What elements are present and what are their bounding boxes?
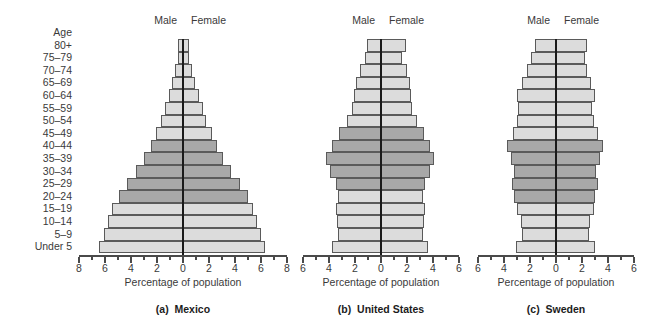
- bar-female: [183, 165, 231, 178]
- x-tick-label: 6: [293, 262, 313, 274]
- x-tick-label: 8: [69, 262, 89, 274]
- bar-male: [527, 64, 556, 77]
- bar-male: [514, 190, 556, 203]
- bar-female: [381, 140, 430, 153]
- bar-male: [336, 203, 382, 216]
- bar-male: [144, 152, 183, 165]
- bar-female: [381, 241, 428, 254]
- x-tick-label: 2: [345, 262, 365, 274]
- x-tick-minor: [393, 257, 394, 261]
- bar-female: [556, 228, 589, 241]
- bar-female: [381, 127, 424, 140]
- bar-female: [556, 127, 598, 140]
- bar-male: [516, 241, 556, 254]
- gender-header: MaleFemale: [478, 14, 634, 28]
- bar-male: [332, 241, 381, 254]
- bar-male: [514, 165, 556, 178]
- bar-male: [338, 190, 381, 203]
- x-tick-label: 2: [572, 262, 592, 274]
- panel-mexico: MaleFemale864202468Percentage of populat…: [79, 0, 287, 336]
- male-label: Male: [527, 14, 550, 26]
- age-group-label: 60–64: [0, 89, 78, 102]
- bar-male: [156, 127, 183, 140]
- female-label: Female: [389, 14, 424, 26]
- bar-female: [381, 52, 402, 65]
- bar-male: [513, 127, 556, 140]
- bar-female: [381, 178, 425, 191]
- bar-male: [165, 102, 183, 115]
- bar-male: [517, 115, 556, 128]
- bar-male: [518, 102, 556, 115]
- age-group-label: 55–59: [0, 102, 78, 115]
- bar-female: [183, 241, 265, 254]
- bar-female: [556, 178, 598, 191]
- bar-female: [183, 190, 248, 203]
- x-tick-label: 4: [319, 262, 339, 274]
- x-axis-title: Percentage of population: [303, 276, 459, 288]
- bar-female: [556, 215, 590, 228]
- age-axis-title: Age: [0, 26, 78, 39]
- age-group-label: 5–9: [0, 228, 78, 241]
- x-tick-minor: [169, 257, 170, 261]
- bar-male: [347, 115, 381, 128]
- bar-male: [151, 140, 184, 153]
- bar-female: [381, 102, 412, 115]
- bar-female: [381, 190, 423, 203]
- bar-male: [104, 228, 183, 241]
- x-tick-label: 4: [423, 262, 443, 274]
- bar-male: [507, 140, 556, 153]
- male-label: Male: [352, 14, 375, 26]
- bar-male: [522, 77, 556, 90]
- x-axis-title: Percentage of population: [79, 276, 287, 288]
- bar-male: [330, 165, 381, 178]
- age-group-label: 20–24: [0, 190, 78, 203]
- bar-female: [556, 241, 595, 254]
- bar-female: [183, 77, 195, 90]
- bar-female: [381, 165, 430, 178]
- caption-name: Mexico: [175, 303, 211, 315]
- age-group-label: 40–44: [0, 139, 78, 152]
- panel-caption-sweden: (c) Sweden: [448, 303, 662, 315]
- bar-female: [556, 39, 587, 52]
- panel-united-states: MaleFemale6420246Percentage of populatio…: [303, 0, 459, 336]
- bar-female: [183, 152, 223, 165]
- x-tick-minor: [445, 257, 446, 261]
- bar-female: [183, 127, 212, 140]
- bar-female: [381, 215, 424, 228]
- bar-female: [183, 140, 217, 153]
- bar-female: [556, 165, 596, 178]
- caption-letter: (a): [156, 303, 169, 315]
- bar-female: [556, 140, 603, 153]
- bar-male: [360, 64, 381, 77]
- x-tick-minor: [117, 257, 118, 261]
- bar-male: [365, 52, 381, 65]
- panel-sweden: MaleFemale6420246Percentage of populatio…: [478, 0, 634, 336]
- bar-male: [161, 115, 183, 128]
- bar-male: [512, 178, 556, 191]
- bar-female: [183, 52, 189, 65]
- x-tick-label: 2: [397, 262, 417, 274]
- x-tick-label: 6: [624, 262, 644, 274]
- bar-female: [556, 190, 595, 203]
- age-axis-labels: Age80+75–7970–7465–6960–6455–5950–5445–4…: [0, 26, 78, 253]
- age-group-label: 80+: [0, 39, 78, 52]
- x-tick-label: 4: [225, 262, 245, 274]
- bar-female: [556, 102, 592, 115]
- bar-male: [521, 215, 556, 228]
- age-group-label: 65–69: [0, 76, 78, 89]
- center-axis-line: [380, 39, 382, 255]
- x-tick-minor: [542, 257, 543, 261]
- bar-male: [169, 89, 183, 102]
- caption-letter: (c): [527, 303, 540, 315]
- x-tick-label: 2: [520, 262, 540, 274]
- bar-female: [183, 102, 203, 115]
- bar-female: [556, 115, 594, 128]
- bar-male: [531, 52, 556, 65]
- bar-female: [183, 89, 199, 102]
- x-tick-minor: [490, 257, 491, 261]
- x-tick-label: 6: [251, 262, 271, 274]
- bar-male: [337, 215, 381, 228]
- caption-letter: (b): [338, 303, 351, 315]
- population-pyramid-figure: Age80+75–7970–7465–6960–6455–5950–5445–4…: [0, 0, 662, 336]
- caption-name: Sweden: [546, 303, 586, 315]
